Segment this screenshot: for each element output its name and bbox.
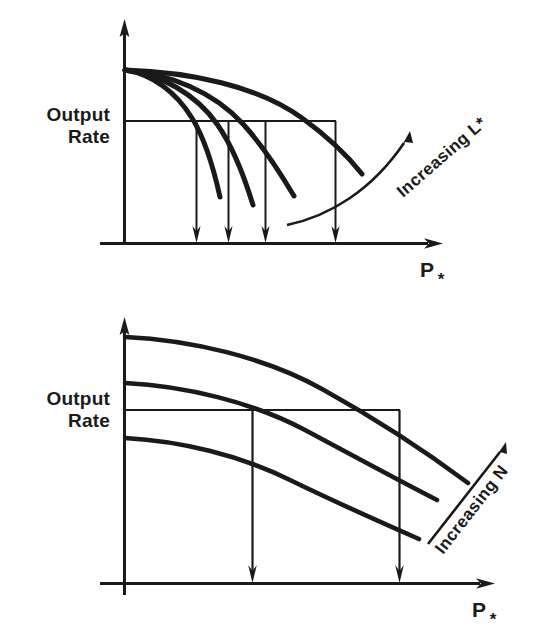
top-x-axis-label-subscript: *	[438, 270, 445, 289]
bottom-curve-low-n	[125, 438, 419, 539]
bottom-x-axis	[100, 578, 495, 589]
top-drop-arrow-1	[192, 121, 200, 243]
top-chart-panel: Increasing L* Output Rate P *	[47, 19, 491, 289]
top-x-axis	[100, 238, 443, 249]
top-drop-arrow-3	[261, 121, 269, 243]
top-curve-group	[125, 70, 362, 205]
top-curve-3	[125, 70, 294, 196]
bottom-drop-arrow-1	[248, 410, 257, 583]
bottom-annotation-label: Increasing N	[431, 462, 512, 558]
top-increasing-arrow	[287, 131, 413, 225]
top-y-axis-label-line2: Rate	[68, 126, 110, 147]
top-x-axis-label: P	[420, 258, 434, 281]
bottom-curve-group	[125, 337, 468, 539]
bottom-x-axis-label: P	[472, 598, 486, 621]
arrowhead-icon	[494, 442, 507, 459]
bottom-y-axis-label-line2: Rate	[68, 410, 110, 431]
top-annotation-label: Increasing L*	[393, 113, 490, 201]
bottom-x-axis-label-subscript: *	[490, 610, 497, 629]
top-drop-arrow-4	[331, 121, 339, 243]
bottom-y-axis	[120, 317, 130, 595]
bottom-y-axis-label-line1: Output	[47, 388, 111, 409]
two-panel-line-chart: Increasing L* Output Rate P *	[0, 0, 558, 644]
top-curve-2	[125, 70, 253, 205]
top-y-axis-label-line1: Output	[47, 104, 111, 125]
top-curve-1	[125, 70, 220, 197]
bottom-chart-panel: Increasing N Output Rate P *	[47, 317, 512, 629]
figure-container: Increasing L* Output Rate P *	[0, 0, 558, 644]
top-y-axis	[120, 19, 130, 245]
